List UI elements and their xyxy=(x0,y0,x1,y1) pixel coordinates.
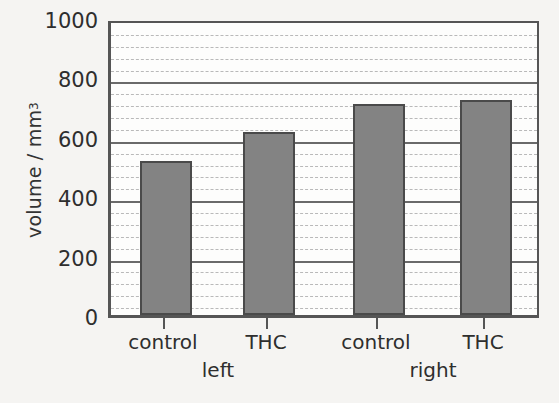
bar-chart: volume / mm3 02004006008001000 controlTH… xyxy=(0,0,559,403)
x-axis-group-labels: leftright xyxy=(108,358,539,388)
bars-group xyxy=(111,23,537,315)
x-axis-group-label: left xyxy=(202,358,234,382)
bar xyxy=(243,132,295,315)
y-axis-tick-label: 600 xyxy=(36,129,98,150)
y-axis-tick-label: 1000 xyxy=(36,11,98,32)
x-axis-tick xyxy=(266,318,268,329)
y-axis-tick-label: 800 xyxy=(36,70,98,91)
y-axis-tick-labels: 02004006008001000 xyxy=(36,0,98,403)
x-axis-group-label: right xyxy=(410,358,457,382)
x-axis-ticks xyxy=(108,318,539,330)
x-axis-tick-label: THC xyxy=(245,330,286,354)
bar xyxy=(460,100,512,315)
x-axis-tick xyxy=(376,318,378,329)
plot-area xyxy=(108,21,539,318)
bar xyxy=(140,161,192,315)
y-axis-tick-label: 0 xyxy=(36,308,98,329)
bar xyxy=(353,104,405,315)
y-axis-tick-label: 200 xyxy=(36,248,98,269)
y-axis-tick-label: 400 xyxy=(36,189,98,210)
x-axis-tick xyxy=(163,318,165,329)
x-axis-tick xyxy=(483,318,485,329)
x-axis-tick-label: THC xyxy=(462,330,503,354)
x-axis-tick-labels: controlTHCcontrolTHC xyxy=(108,330,539,360)
x-axis-tick-label: control xyxy=(128,330,197,354)
x-axis-tick-label: control xyxy=(341,330,410,354)
